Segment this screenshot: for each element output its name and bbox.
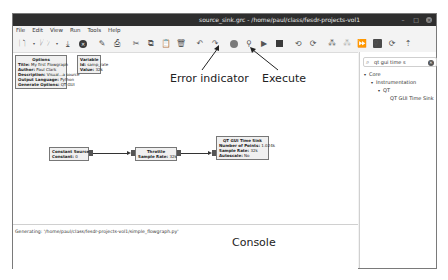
console-label: Console [232, 236, 276, 249]
annotation-arrows [0, 0, 448, 280]
execute-label: Execute [262, 72, 306, 85]
error-indicator-label: Error indicator [170, 72, 249, 85]
